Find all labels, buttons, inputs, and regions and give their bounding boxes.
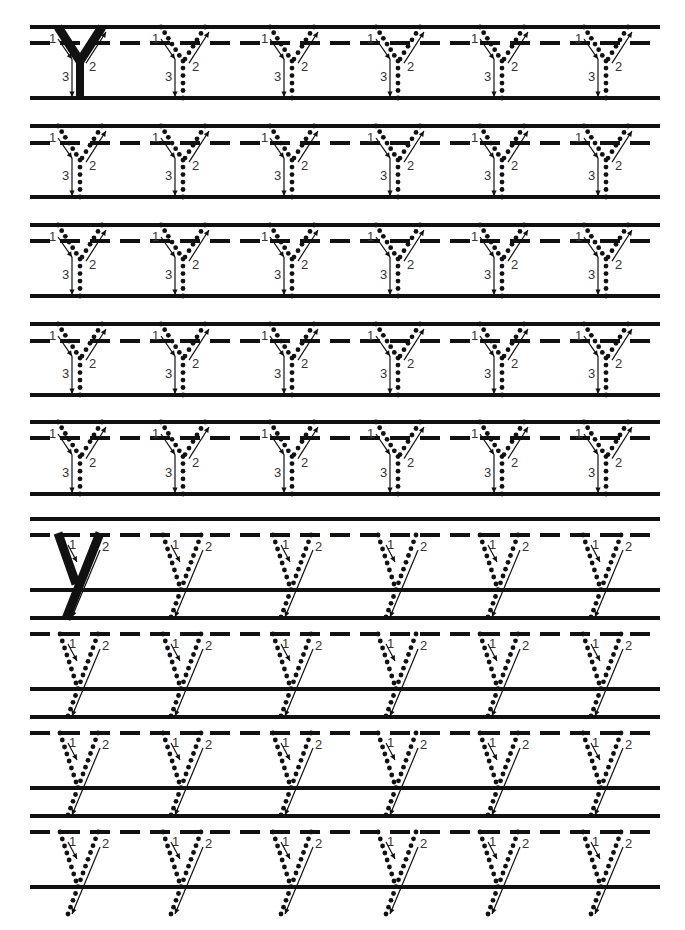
stroke-3-arrow [172,455,177,493]
stroke-number-1: 1 [261,130,268,145]
uppercase-y-cell: 123 [471,124,528,200]
dotted-letter-Y [478,322,527,398]
stroke-number-1: 1 [471,31,478,46]
stroke-number-1: 1 [367,229,374,244]
guide-lines [30,27,660,887]
stroke-number-2: 2 [301,257,308,272]
stroke-number-3: 3 [380,267,387,282]
uppercase-y-cell: 123 [49,124,106,200]
dotted-letter-y [271,830,314,917]
uppercase-y-cell: 123 [471,420,528,497]
stroke-number-1: 1 [471,328,478,343]
stroke-number-3: 3 [165,69,172,84]
lowercase-y-cell: 12 [376,830,428,917]
stroke-number-2: 2 [205,638,212,653]
lowercase-y-cell: 12 [58,533,109,619]
stroke-number-1: 1 [367,328,374,343]
stroke-number-3: 3 [274,366,281,381]
stroke-3-arrow [595,257,600,295]
stroke-number-2: 2 [102,638,109,653]
stroke-3-arrow [595,455,600,493]
lowercase-y-cell: 12 [581,731,633,818]
dotted-letter-y [376,830,419,917]
stroke-number-3: 3 [484,69,491,84]
stroke-number-1: 1 [261,426,268,441]
lowercase-y-cell: 12 [478,830,530,917]
stroke-number-2: 2 [89,59,96,74]
uppercase-y-cell: 123 [367,322,424,398]
stroke-number-3: 3 [380,366,387,381]
uppercase-y-cell: 123 [471,25,528,101]
uppercase-y-cell: 123 [367,420,424,497]
dotted-letter-Y [56,124,105,200]
stroke-number-3: 3 [588,465,595,480]
stroke-number-2: 2 [615,158,622,173]
stroke-number-1: 1 [49,130,56,145]
stroke-number-1: 1 [261,31,268,46]
stroke-number-1: 1 [575,229,582,244]
dotted-letter-y [478,830,521,917]
stroke-number-2: 2 [301,158,308,173]
dotted-letter-Y [374,322,423,398]
stroke-number-3: 3 [588,69,595,84]
stroke-number-2: 2 [511,59,518,74]
stroke-3-arrow [491,59,496,97]
dotted-letter-Y [268,25,317,101]
uppercase-y-cell: 123 [261,124,318,200]
stroke-number-1: 1 [367,426,374,441]
stroke-number-3: 3 [484,465,491,480]
lowercase-y-cell: 12 [478,632,530,719]
dotted-letter-Y [478,223,527,299]
uppercase-y-cell: 123 [575,223,632,299]
lowercase-y-cell: 12 [581,632,633,719]
stroke-number-3: 3 [165,267,172,282]
stroke-number-2: 2 [511,455,518,470]
stroke-3-arrow [69,455,74,493]
lowercase-y-cell: 12 [58,731,110,818]
stroke-number-2: 2 [407,59,414,74]
stroke-number-2: 2 [511,257,518,272]
dotted-letter-Y [478,420,527,497]
uppercase-y-cell: 123 [152,420,209,497]
dotted-letter-y [581,533,624,620]
dotted-letter-Y [159,322,208,398]
uppercase-y-cell: 123 [575,420,632,497]
dotted-letter-Y [374,420,423,497]
stroke-number-3: 3 [62,465,69,480]
dotted-letter-Y [268,322,317,398]
dotted-letter-y [161,731,204,818]
stroke-number-1: 1 [471,426,478,441]
stroke-number-2: 2 [615,455,622,470]
stroke-number-2: 2 [522,539,529,554]
uppercase-y-cell: 123 [49,223,106,299]
stroke-number-3: 3 [62,168,69,183]
stroke-number-3: 3 [274,465,281,480]
stroke-3-arrow [281,257,286,295]
stroke-3-arrow [172,158,177,196]
stroke-number-2: 2 [192,455,199,470]
dotted-letter-Y [159,124,208,200]
uppercase-y-cell: 123 [152,25,209,101]
stroke-number-2: 2 [315,737,322,752]
stroke-number-2: 2 [615,356,622,371]
uppercase-y-cell: 123 [367,124,424,200]
stroke-number-1: 1 [367,130,374,145]
stroke-number-1: 1 [575,31,582,46]
dotted-letter-y [478,533,521,620]
stroke-number-2: 2 [102,737,109,752]
dotted-letter-y [161,830,204,917]
stroke-number-2: 2 [420,539,427,554]
stroke-number-3: 3 [274,69,281,84]
stroke-number-2: 2 [205,836,212,851]
stroke-number-2: 2 [315,638,322,653]
stroke-3-arrow [281,59,286,97]
uppercase-y-cell: 123 [575,322,632,398]
stroke-3-arrow [387,356,392,394]
dotted-letter-Y [478,124,527,200]
stroke-number-3: 3 [62,69,69,84]
stroke-3-arrow [387,257,392,295]
dotted-letter-y [376,632,419,719]
stroke-3-arrow [491,356,496,394]
stroke-number-3: 3 [588,168,595,183]
lowercase-y-cell: 12 [58,632,110,719]
